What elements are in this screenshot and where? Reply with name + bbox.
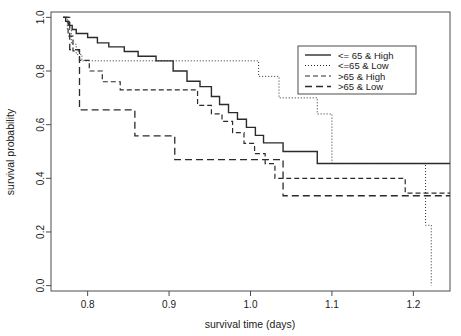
survival-curve-3 [63, 17, 450, 195]
legend-label-0: <= 65 & High [338, 50, 393, 61]
chart-canvas: 0.80.91.01.11.20.00.20.40.60.81.0 <= 65 … [0, 0, 461, 336]
x-axis-title: survival time (days) [205, 318, 295, 330]
y-tick-label: 0.6 [36, 117, 47, 131]
y-tick-label: 1.0 [36, 10, 47, 24]
survival-curve-2 [63, 17, 450, 193]
x-tick-label: 1.2 [406, 299, 420, 310]
legend-label-3: >65 & Low [338, 81, 383, 92]
x-tick-label: 1.1 [325, 299, 339, 310]
y-axis-title: survival probability [4, 108, 16, 195]
legend-label-1: <=65 & Low [338, 60, 389, 71]
x-tick-label: 1.0 [244, 299, 258, 310]
legend-label-2: >65 & High [338, 71, 385, 82]
legend-group: <= 65 & High<=65 & Low>65 & High>65 & Lo… [298, 46, 416, 94]
y-tick-label: 0.0 [36, 278, 47, 292]
y-tick-label: 0.4 [36, 171, 47, 185]
x-tick-label: 0.8 [81, 299, 95, 310]
y-tick-label: 0.8 [36, 64, 47, 78]
y-tick-label: 0.2 [36, 225, 47, 239]
survival-plot-figure: 0.80.91.01.11.20.00.20.40.60.81.0 <= 65 … [0, 0, 461, 336]
x-tick-label: 0.9 [162, 299, 176, 310]
